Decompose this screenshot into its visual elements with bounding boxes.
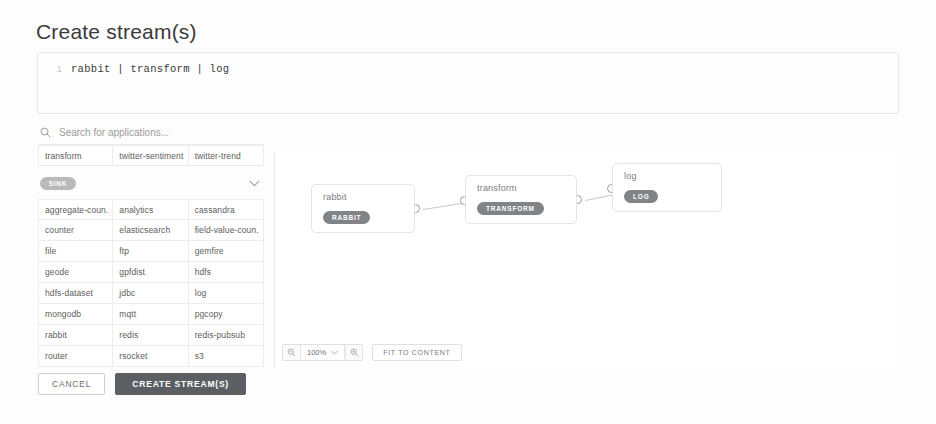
search-input[interactable]: [59, 127, 239, 138]
app-chip[interactable]: hdfs-dataset: [38, 283, 113, 304]
app-chip[interactable]: gemfire: [189, 241, 264, 262]
zoom-level-value: 100%: [307, 348, 326, 357]
create-stream-button[interactable]: CREATE STREAM(S): [115, 373, 246, 395]
page-title: Create stream(s): [36, 20, 197, 44]
zoom-out-icon[interactable]: [283, 345, 300, 360]
zoom-control-group: 100%: [282, 344, 363, 361]
app-chip[interactable]: redis: [113, 325, 188, 346]
app-grid: aggregate-coun.analyticscassandracounter…: [38, 199, 264, 367]
cancel-button[interactable]: CANCEL: [38, 373, 105, 395]
app-chip[interactable]: log: [189, 283, 264, 304]
app-chip[interactable]: mongodb: [38, 304, 113, 325]
flow-node-transform[interactable]: transform TRANSFORM: [465, 175, 577, 224]
app-chip[interactable]: twitter-sentiment: [113, 145, 188, 166]
form-actions: CANCEL CREATE STREAM(S): [38, 373, 246, 395]
app-chip[interactable]: gpfdist: [113, 262, 188, 283]
app-chip[interactable]: transform: [38, 145, 113, 166]
app-chip[interactable]: rabbit: [38, 325, 113, 346]
stream-flow-canvas[interactable]: rabbit RABBIT transform TRANSFORM log LO…: [274, 150, 899, 368]
node-badge: LOG: [624, 190, 658, 203]
app-type-badge: SINK: [40, 177, 76, 190]
app-chip[interactable]: field-value-coun.: [189, 220, 264, 241]
app-chip[interactable]: counter: [38, 220, 113, 241]
app-chip[interactable]: twitter-trend: [189, 145, 264, 166]
zoom-level-select[interactable]: 100%: [300, 345, 345, 360]
flow-link: [423, 202, 465, 210]
create-stream-page: Create stream(s) 1 rabbit | transform | …: [0, 0, 936, 424]
app-grid-visible-row: transform twitter-sentiment twitter-tren…: [38, 145, 264, 166]
node-title: rabbit: [323, 192, 404, 202]
search-icon: [40, 127, 51, 138]
node-title: log: [624, 171, 711, 181]
app-chip[interactable]: cassandra: [189, 199, 264, 220]
chevron-down-icon[interactable]: [249, 180, 260, 187]
zoom-in-icon[interactable]: [345, 345, 362, 360]
app-chip[interactable]: jdbc: [113, 283, 188, 304]
app-chip[interactable]: rsocket: [113, 346, 188, 367]
app-chip[interactable]: elasticsearch: [113, 220, 188, 241]
flow-layer: rabbit RABBIT transform TRANSFORM log LO…: [275, 150, 899, 368]
app-chip[interactable]: aggregate-coun.: [38, 199, 113, 220]
palette-search-row[interactable]: [38, 126, 264, 145]
node-badge: RABBIT: [323, 211, 370, 224]
app-chip[interactable]: file: [38, 241, 113, 262]
app-chip[interactable]: ftp: [113, 241, 188, 262]
app-group-header[interactable]: SINK: [38, 171, 264, 195]
flow-node-rabbit[interactable]: rabbit RABBIT: [311, 184, 415, 233]
app-chip[interactable]: hdfs: [189, 262, 264, 283]
application-palette: transform twitter-sentiment twitter-tren…: [38, 126, 264, 367]
app-chip[interactable]: s3: [189, 346, 264, 367]
node-title: transform: [477, 183, 566, 193]
canvas-toolbar: 100% FIT TO CONTENT: [282, 344, 462, 361]
editor-code-text: rabbit | transform | log: [71, 62, 229, 76]
node-badge: TRANSFORM: [477, 202, 544, 215]
app-chip[interactable]: pgcopy: [189, 304, 264, 325]
app-chip[interactable]: mqtt: [113, 304, 188, 325]
flow-node-log[interactable]: log LOG: [612, 163, 722, 212]
app-chip[interactable]: geode: [38, 262, 113, 283]
app-chip[interactable]: router: [38, 346, 113, 367]
stream-dsl-editor[interactable]: 1 rabbit | transform | log: [37, 52, 899, 114]
editor-line[interactable]: 1 rabbit | transform | log: [38, 53, 898, 77]
app-chip[interactable]: analytics: [113, 199, 188, 220]
editor-line-number: 1: [46, 62, 62, 77]
app-chip[interactable]: redis-pubsub: [189, 325, 264, 346]
chevron-down-icon: [331, 348, 338, 357]
fit-to-content-button[interactable]: FIT TO CONTENT: [372, 344, 461, 361]
